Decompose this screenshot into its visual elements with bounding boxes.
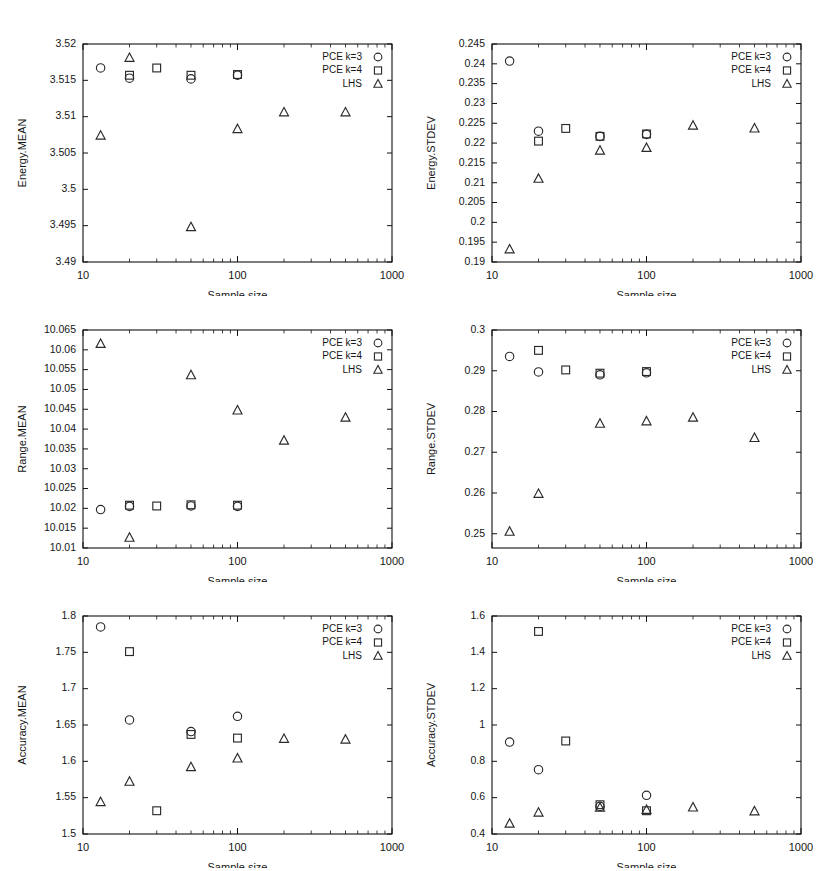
- y-tick-label: 0.4: [470, 827, 485, 839]
- data-point: [505, 244, 514, 252]
- legend-marker-circle: [374, 339, 382, 347]
- data-point: [125, 533, 134, 541]
- legend-marker-square: [783, 353, 790, 360]
- data-point: [96, 505, 104, 513]
- y-tick-label: 10.01: [50, 541, 76, 553]
- legend-label: PCE k=4: [731, 636, 771, 647]
- data-point: [535, 346, 543, 354]
- plot-panel-range-stdev: 0.250.260.270.280.290.3101001000Sample s…: [409, 292, 817, 582]
- data-point: [153, 64, 161, 72]
- y-axis-title: Range.MEAN: [16, 405, 28, 472]
- data-point: [505, 57, 513, 65]
- x-tick-label: 100: [637, 841, 655, 853]
- legend-label: PCE k=4: [322, 636, 362, 647]
- series-square: [535, 346, 651, 377]
- y-tick-label: 1.6: [470, 609, 485, 621]
- y-tick-label: 10.02: [50, 501, 76, 513]
- plot-svg-energy-stdev: 0.190.1950.20.2050.210.2150.220.2250.230…: [409, 6, 817, 296]
- plot-svg-range-mean: 10.0110.01510.0210.02510.0310.03510.0410…: [0, 292, 408, 582]
- y-tick-label: 1.55: [56, 790, 77, 802]
- y-tick-label: 0.24: [465, 57, 486, 69]
- x-tick-label: 1000: [789, 841, 813, 853]
- data-point: [280, 436, 289, 444]
- series-square: [126, 648, 242, 815]
- series-triangle: [505, 121, 759, 253]
- y-tick-label: 1.65: [56, 718, 77, 730]
- y-tick-label: 10.03: [50, 462, 76, 474]
- y-tick-label: 3.505: [50, 146, 76, 158]
- y-tick-label: 1.4: [470, 645, 485, 657]
- legend-label: PCE k=3: [731, 337, 771, 348]
- legend-label: LHS: [752, 78, 772, 89]
- series-triangle: [505, 413, 759, 536]
- legend-label: LHS: [343, 78, 363, 89]
- y-tick-label: 0.21: [465, 176, 486, 188]
- y-tick-label: 0.28: [465, 404, 486, 416]
- x-tick-label: 1000: [380, 269, 404, 281]
- data-point: [750, 806, 759, 814]
- data-point: [341, 413, 350, 421]
- data-point: [505, 819, 514, 827]
- y-tick-label: 0.27: [465, 445, 486, 457]
- data-point: [341, 107, 350, 115]
- data-point: [505, 352, 513, 360]
- y-tick-label: 3.515: [50, 73, 76, 85]
- data-point: [596, 371, 604, 379]
- plot-panel-accuracy-stdev: 0.40.60.811.21.41.6101001000Sample sizeA…: [409, 578, 817, 868]
- y-tick-label: 10.015: [44, 521, 76, 533]
- data-point: [125, 777, 134, 785]
- legend-marker-circle: [783, 339, 791, 347]
- data-point: [689, 413, 698, 421]
- y-axis-title: Energy.MEAN: [16, 119, 28, 188]
- y-tick-label: 1.7: [61, 681, 76, 693]
- series-square: [126, 64, 242, 79]
- data-point: [341, 735, 350, 743]
- data-point: [505, 738, 513, 746]
- y-tick-label: 0.26: [465, 486, 486, 498]
- data-point: [125, 53, 134, 61]
- y-tick-label: 1.2: [470, 681, 485, 693]
- x-axis-title: Sample size: [617, 861, 677, 868]
- y-tick-label: 10.055: [44, 362, 76, 374]
- data-point: [125, 716, 133, 724]
- legend-marker-circle: [374, 625, 382, 633]
- x-tick-label: 100: [228, 269, 246, 281]
- data-point: [642, 143, 651, 151]
- legend-marker-triangle: [374, 365, 382, 373]
- series-triangle: [96, 734, 350, 806]
- legend-label: PCE k=3: [322, 623, 362, 634]
- y-tick-label: 0.2: [470, 215, 485, 227]
- legend-label: PCE k=3: [731, 51, 771, 62]
- y-tick-label: 10.06: [50, 343, 76, 355]
- plot-svg-range-stdev: 0.250.260.270.280.290.3101001000Sample s…: [409, 292, 817, 582]
- x-tick-label: 10: [486, 555, 498, 567]
- legend-label: PCE k=4: [322, 350, 362, 361]
- y-tick-label: 0.29: [465, 364, 486, 376]
- y-tick-label: 10.025: [44, 481, 76, 493]
- series-circle: [505, 352, 650, 379]
- data-point: [750, 433, 759, 441]
- data-point: [562, 366, 570, 374]
- plot-svg-accuracy-stdev: 0.40.60.811.21.41.6101001000Sample sizeA…: [409, 578, 817, 868]
- data-point: [689, 121, 698, 129]
- legend-label: LHS: [343, 650, 363, 661]
- plot-svg-energy-mean: 3.493.4953.53.5053.513.5153.52101001000S…: [0, 6, 408, 296]
- series-circle: [505, 57, 650, 141]
- series-triangle: [505, 803, 759, 828]
- y-tick-label: 0.25: [465, 527, 486, 539]
- y-tick-label: 0.23: [465, 96, 486, 108]
- x-axis-title: Sample size: [208, 861, 268, 868]
- y-tick-label: 1.8: [61, 609, 76, 621]
- legend-label: PCE k=3: [322, 51, 362, 62]
- data-point: [642, 416, 651, 424]
- y-tick-label: 3.5: [61, 182, 76, 194]
- data-point: [153, 807, 161, 815]
- y-tick-label: 1: [479, 718, 485, 730]
- data-point: [689, 803, 698, 811]
- legend-marker-triangle: [783, 365, 791, 373]
- data-point: [642, 791, 650, 799]
- x-tick-label: 100: [228, 555, 246, 567]
- y-tick-label: 10.05: [50, 382, 76, 394]
- series-triangle: [96, 339, 350, 541]
- x-tick-label: 1000: [789, 555, 813, 567]
